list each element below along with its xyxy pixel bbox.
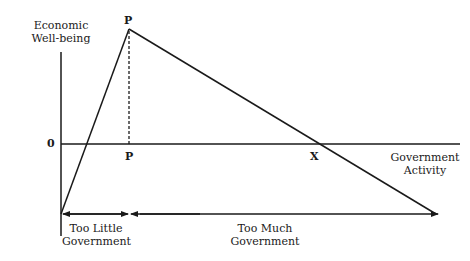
- crossing-label: X: [310, 150, 319, 163]
- peak-axis-label: P: [125, 150, 133, 163]
- rising-curve: [61, 29, 129, 214]
- too-much-label: Too Much Government: [230, 222, 300, 248]
- x-axis-label: Government Activity: [390, 151, 460, 177]
- too-little-label: Too Little Government: [62, 222, 130, 248]
- y-axis-label: Economic Well-being: [16, 19, 106, 45]
- origin-label: 0: [47, 137, 55, 150]
- falling-curve: [129, 29, 436, 214]
- peak-label: P: [124, 14, 132, 27]
